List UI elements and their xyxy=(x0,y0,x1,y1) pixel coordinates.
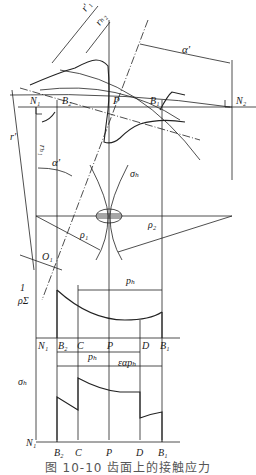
stress-curve xyxy=(57,378,162,442)
label-alpha-left: α' xyxy=(52,156,61,168)
label-P-bottom: P xyxy=(105,447,112,458)
right-angle-N2 xyxy=(225,100,232,107)
label-C-bottom: C xyxy=(75,447,82,458)
label-N1-bottom: N₁ xyxy=(25,437,36,448)
label-P-top: P xyxy=(112,94,120,106)
label-B1-top: B₁ xyxy=(150,95,160,106)
label-B1-mid: B₁ xyxy=(160,340,170,351)
label-r-prime: r' xyxy=(10,131,17,142)
label-B2-bottom: B₂ xyxy=(54,447,64,458)
O1-line xyxy=(20,255,62,270)
label-D-mid: D xyxy=(141,340,150,351)
label-sigmaH-top: σₕ xyxy=(130,168,139,179)
label-rho2: ρ₂ xyxy=(147,219,157,230)
label-rb2: rₕ₂ xyxy=(93,11,109,27)
label-N2: N₂ xyxy=(235,95,247,106)
label-inv-rho-den: ρΣ xyxy=(17,295,29,306)
label-P-mid: P xyxy=(106,340,113,351)
label-eps-pb: εαpₕ xyxy=(118,357,137,368)
label-N1-mid: N₁ xyxy=(37,340,48,351)
label-B2-mid: B₂ xyxy=(58,340,68,351)
base-circle-arc xyxy=(60,70,200,160)
label-pb-top: pₕ xyxy=(125,275,135,286)
dim-r1prime xyxy=(52,6,98,63)
label-r1prime: r'₁ xyxy=(79,0,93,13)
label-sigmaH-axis: σₕ xyxy=(18,376,27,387)
rho1-line xyxy=(36,216,100,250)
line-r-prime xyxy=(12,90,34,270)
dim-rb2 xyxy=(86,22,110,53)
label-inv-rho-num: 1 xyxy=(20,282,25,293)
inv-rho-curve xyxy=(57,290,162,320)
pitch-arc-2 xyxy=(10,95,230,108)
alpha-arc-left xyxy=(38,168,72,176)
label-N1-top: N₁ xyxy=(29,95,40,106)
label-B2-top: B₂ xyxy=(62,95,72,106)
right-angle-N1 xyxy=(36,107,42,114)
label-O1: O₁ xyxy=(42,251,53,262)
label-rb1: rₕ₁ xyxy=(38,145,48,156)
label-rho1: ρ₁ xyxy=(79,229,88,240)
label-D-bottom: D xyxy=(135,447,144,458)
tooth-profile-2 xyxy=(42,112,55,122)
surface-right xyxy=(110,165,128,260)
label-alpha-top: α' xyxy=(182,43,191,55)
rho2-line xyxy=(118,216,232,252)
label-pb-mid: pₕ xyxy=(87,351,97,362)
label-C-mid: C xyxy=(77,340,84,351)
label-B1-bottom: B₁ xyxy=(158,447,168,458)
figure-caption: 图 10-10 齿面上的接触应力 xyxy=(0,458,256,475)
